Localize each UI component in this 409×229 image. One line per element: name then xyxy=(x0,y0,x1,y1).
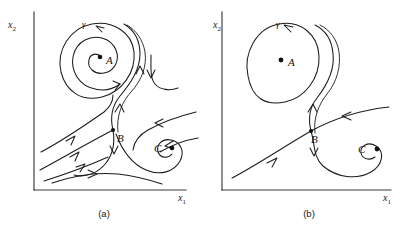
x-axis-label-a: x1 xyxy=(178,193,186,206)
equilibrium-dot-C-a xyxy=(170,146,175,151)
axes-b xyxy=(222,12,391,190)
panel-b: x2 x1 γ A B C (b) xyxy=(205,0,409,229)
trajectory-top-right-a xyxy=(147,55,178,90)
equilibrium-label-A-a: A xyxy=(106,55,113,66)
equilibrium-dot-B-a xyxy=(111,128,115,132)
trajectory-upper-left-arrow-a xyxy=(66,136,75,145)
panel-caption-b: (b) xyxy=(289,209,329,219)
equilibrium-label-B-b: B xyxy=(311,134,318,145)
gamma-arrowhead-a xyxy=(96,26,104,32)
trajectory-bottom-curve-a xyxy=(52,173,162,184)
equilibrium-label-C-a: C xyxy=(154,143,161,154)
stable-manifold-arrow-a xyxy=(70,152,79,161)
manifold-up-strand2-a xyxy=(118,25,146,132)
b-to-c-arc-a xyxy=(116,134,182,173)
trajectory-right-upper-curve-a xyxy=(133,112,196,150)
equilibrium-dot-A-b xyxy=(279,58,284,63)
x-axis-label-b: x1 xyxy=(383,193,391,206)
stable-manifold-curve-a xyxy=(40,130,113,170)
limit-cycle-gamma-a xyxy=(60,23,134,98)
trajectory-right-upper-a xyxy=(133,112,196,150)
equilibrium-label-B-a: B xyxy=(117,133,124,144)
equilibrium-label-A-b: A xyxy=(288,57,295,68)
gamma-curve-a xyxy=(60,23,134,98)
trajectory-upper-left-a xyxy=(41,95,113,152)
stable-manifold-arrow-in-b xyxy=(267,158,277,167)
gamma-label-a: γ xyxy=(82,20,86,29)
gamma-curve-b xyxy=(247,23,319,103)
trajectory-upper-left-curve-a xyxy=(41,95,113,152)
axes-a xyxy=(34,12,186,190)
manifold-down-b xyxy=(310,131,382,177)
manifold-up-strand2-b xyxy=(315,25,340,133)
gamma-arrowhead-b xyxy=(284,25,293,32)
equilibrium-dot-C-b xyxy=(375,147,380,152)
equilibrium-dot-A-a xyxy=(98,55,103,60)
manifold-strand2-curve-b xyxy=(315,25,340,133)
y-axis-label-b: x2 xyxy=(213,20,221,33)
manifold-strand2-curve-a xyxy=(118,25,146,132)
trajectory-top-right-curve-a xyxy=(151,55,178,90)
panel-a: x2 x1 γ A B C (a) xyxy=(0,0,204,229)
trajectory-lower-left-a xyxy=(44,157,108,181)
stable-manifold-a xyxy=(40,130,113,170)
manifold-up-curve-a xyxy=(112,24,140,130)
trajectory-bottom-a xyxy=(52,170,162,184)
manifold-down-a xyxy=(74,130,118,176)
equilibrium-label-C-b: C xyxy=(358,144,365,155)
panel-b-canvas xyxy=(205,0,409,229)
manifold-up-arrow-b xyxy=(308,104,317,112)
limit-cycle-gamma-b xyxy=(247,23,319,103)
y-axis-label-a: x2 xyxy=(8,20,16,33)
panel-a-canvas xyxy=(0,0,204,229)
figure-root: x2 x1 γ A B C (a) xyxy=(0,0,409,229)
manifold-down-curve-b xyxy=(311,131,382,177)
gamma-label-b: γ xyxy=(276,20,280,29)
manifold-up-b xyxy=(308,25,333,131)
manifold-up-curve-b xyxy=(309,25,333,131)
b-to-c-curve-a xyxy=(116,134,182,173)
manifold-down-arrow-b xyxy=(310,148,318,156)
trajectory-lower-left-curve-a xyxy=(44,157,108,181)
panel-caption-a: (a) xyxy=(84,209,124,219)
